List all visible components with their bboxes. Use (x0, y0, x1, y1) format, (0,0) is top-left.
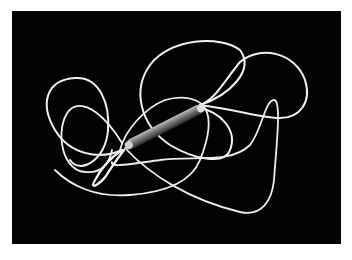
wire (47, 41, 307, 213)
connector-body (125, 103, 205, 150)
wire-segment (200, 53, 307, 118)
connector (123, 102, 207, 151)
wire-illustration (0, 0, 352, 260)
